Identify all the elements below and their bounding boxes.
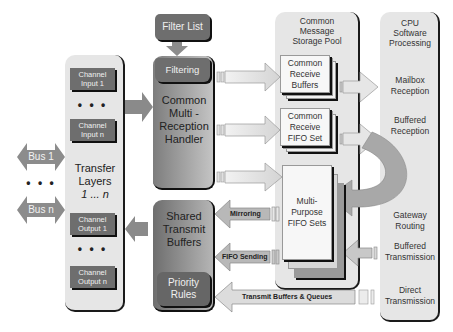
shared-transmit-buffers-label: Shared Transmit Buffers [153,210,215,249]
cpu-buffered-transmission: Buffered Transmission [379,241,441,263]
bus-n-label: Bus n [22,204,60,215]
channel-input-n: Channel Input n [70,119,115,141]
transmit-buffers-queues-label: Transmit Buffers & Queues [242,293,332,300]
receive-fifo-stack: Common Receive FIFO Set [280,108,340,158]
bus-1-label: Bus 1 [22,151,60,162]
channel-output-1: Channel Output 1 [70,213,115,235]
handler-to-receive-buffers-arrow [217,63,280,91]
cpu-direct-transmission: Direct Transmission [379,285,441,307]
handler-to-multi-fifo-arrow [217,163,282,191]
mirroring-label: Mirroring [230,210,261,217]
reception-handler-label: Common Multi - Reception Handler [153,94,215,146]
transmit-to-output-arrow [125,216,148,242]
input-to-handler-arrow [125,92,153,122]
channel-input-1: Channel Input 1 [70,68,115,90]
storage-pool-title: Common Message Storage Pool [277,16,357,46]
cpu-gateway-routing: Gateway Routing [381,210,439,232]
cpu-buffered-reception: Buffered Reception [381,115,439,137]
filter-list-box: Filter List [155,14,210,40]
handler-to-receive-fifo-arrow [217,116,280,144]
filter-list-label: Filter List [162,22,203,32]
bus-ellipsis: • • • [18,176,64,190]
filter-down-arrow [166,40,188,56]
transfer-layers-title: Transfer Layers 1 ... n [66,162,124,201]
channel-output-n: Channel Output n [70,266,115,288]
fifo-sending-label: FIFO Sending [222,253,268,260]
channel-output-ellipsis: • • • [70,242,115,256]
multi-purpose-fifo-stack: Multi- Purpose FIFO Sets [282,165,352,283]
cpu-mailbox-reception: Mailbox Reception [381,75,439,97]
filtering-box: Filtering [155,58,210,82]
receive-buffers-stack: Common Receive Buffers [280,55,340,105]
priority-rules-box: Priority Rules [157,272,210,306]
cpu-title: CPU Software Processing [381,18,439,48]
receive-buffers-to-mailbox-arrow [340,72,378,102]
channel-input-ellipsis: • • • [70,98,115,112]
